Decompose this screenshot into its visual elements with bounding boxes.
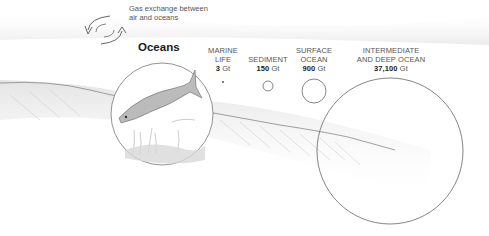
fish-illustration <box>111 63 213 165</box>
reservoir-circles <box>0 0 489 236</box>
sediment-circle <box>263 81 273 91</box>
surface-ocean-circle <box>302 79 326 103</box>
deep-ocean-circle <box>317 78 463 224</box>
marine-life-circle <box>222 81 224 83</box>
